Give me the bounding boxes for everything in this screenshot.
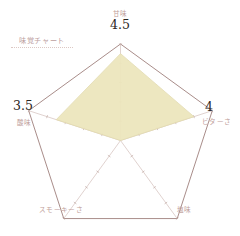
axis-value-sweetness: 4.5 <box>90 19 150 32</box>
axis-value-acidity: 3.5 <box>2 100 44 113</box>
axis-tick <box>142 171 145 173</box>
taste-radar-chart: 味覚チャート 甘味 4.5 ビターさ 4 塩味 スモーキーさ 酸味 3.5 <box>0 0 240 236</box>
axis-label-saltiness: 塩味 <box>162 207 206 214</box>
axis-label-acidity: 酸味 <box>4 120 44 127</box>
axis-value-bitterness: 4 <box>205 101 229 114</box>
axis-tick <box>153 186 156 188</box>
axis-label-smokiness: スモーキーさ <box>30 207 92 214</box>
axis-tick <box>85 186 88 188</box>
axis-tick <box>165 202 168 204</box>
axis-tick <box>131 155 134 157</box>
axis-label-bitterness: ビターさ <box>202 119 240 126</box>
axis-tick <box>97 171 100 173</box>
data-area <box>56 54 194 141</box>
axis-tick <box>74 202 77 204</box>
axis-tick <box>108 155 111 157</box>
